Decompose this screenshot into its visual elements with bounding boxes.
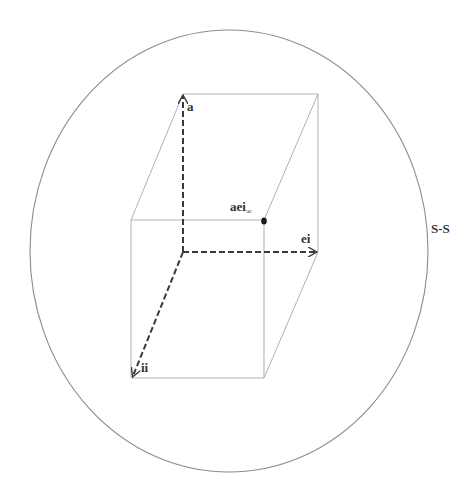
point-aei-infinity — [261, 217, 267, 224]
label-a-text: a — [187, 99, 194, 114]
label-aei-subscript: ∞ — [246, 207, 252, 216]
label-ei: ei — [301, 232, 310, 245]
label-ii-text: ii — [141, 360, 148, 375]
label-ii: ii — [141, 361, 148, 374]
label-a: a — [187, 100, 194, 113]
parallelepiped-edges — [131, 94, 318, 378]
label-boundary-ss: S-S — [431, 222, 450, 235]
vector-ii — [133, 252, 183, 376]
label-aei-infinity: aei∞ — [230, 200, 252, 216]
axis-vectors — [133, 96, 316, 376]
label-aei-main: aei — [230, 199, 246, 214]
label-ei-text: ei — [301, 231, 310, 246]
label-ss-text: S-S — [431, 221, 450, 236]
diagram-canvas — [0, 0, 474, 495]
